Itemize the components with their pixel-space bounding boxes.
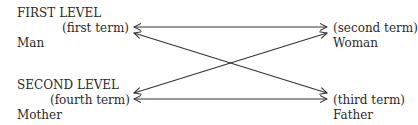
connection-arrows [0,0,417,125]
